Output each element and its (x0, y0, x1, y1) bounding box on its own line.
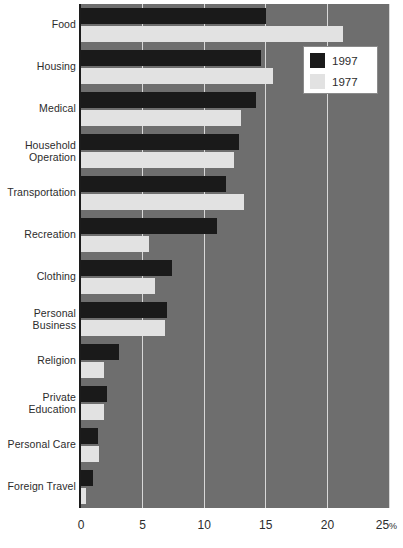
bar (81, 470, 93, 486)
bar (81, 68, 273, 84)
category-label: Religion (0, 355, 76, 367)
bar (81, 176, 226, 192)
category-label: Food (0, 19, 76, 31)
category-label: Housing (0, 61, 76, 73)
bar (81, 260, 172, 276)
bar-chart: FoodHousingMedicalHousehold OperationTra… (0, 0, 403, 548)
bar (81, 362, 104, 378)
bar (81, 8, 266, 24)
legend-label-1997: 1997 (332, 55, 358, 67)
category-label: Foreign Travel (0, 481, 76, 493)
gridline-25 (389, 4, 390, 508)
category-labels: FoodHousingMedicalHousehold OperationTra… (0, 0, 76, 510)
percent-sign: % (389, 521, 397, 531)
bar (81, 194, 244, 210)
x-tick-label-0: 0 (78, 518, 85, 532)
bar (81, 236, 149, 252)
bar (81, 218, 217, 234)
bar (81, 302, 167, 318)
bar (81, 386, 107, 402)
bar (81, 428, 98, 444)
bar (81, 152, 234, 168)
bar (81, 344, 119, 360)
bar (81, 446, 99, 462)
legend-swatch-1977 (310, 74, 325, 89)
bar (81, 134, 239, 150)
legend-item-1977: 1977 (310, 73, 358, 90)
category-label: Medical (0, 103, 76, 115)
x-tick-label-20: 20 (321, 518, 334, 532)
category-label: Transportation (0, 187, 76, 199)
category-label: Personal Care (0, 439, 76, 451)
x-tick-label-5: 5 (139, 518, 146, 532)
x-tick-label-15: 15 (259, 518, 272, 532)
bar (81, 488, 86, 504)
bar (81, 404, 104, 420)
bar (81, 320, 165, 336)
legend-label-1977: 1977 (332, 76, 358, 88)
category-label: Private Education (0, 392, 76, 415)
category-label: Clothing (0, 271, 76, 283)
bar (81, 26, 343, 42)
bar (81, 50, 261, 66)
x-tick-label-25: 25% (376, 518, 397, 532)
legend-item-1997: 1997 (310, 52, 358, 69)
category-label: Recreation (0, 229, 76, 241)
bar (81, 110, 241, 126)
bar (81, 278, 155, 294)
category-label: Personal Business (0, 308, 76, 331)
x-axis: 0510152025% (0, 512, 403, 536)
bar (81, 92, 256, 108)
x-tick-label-10: 10 (198, 518, 211, 532)
category-label: Household Operation (0, 140, 76, 163)
chart-legend: 1997 1977 (303, 46, 378, 94)
legend-swatch-1997 (310, 53, 325, 68)
